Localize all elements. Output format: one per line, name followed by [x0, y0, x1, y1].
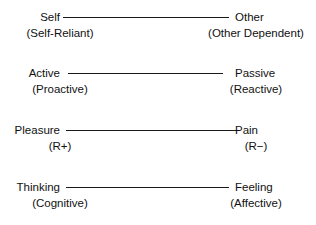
dimension-sublabels: (Self-Reliant) (Other Dependent) — [0, 25, 316, 41]
scale-connector-line — [66, 187, 229, 188]
right-pole-label: Pain — [235, 122, 258, 138]
dimension-row: Pleasure Pain (R+) (R−) — [0, 122, 316, 162]
left-pole-sublabel: (R+) — [0, 138, 120, 154]
dimension-sublabels: (Proactive) (Reactive) — [0, 81, 316, 97]
right-pole-label: Feeling — [235, 179, 273, 195]
left-pole-sublabel: (Cognitive) — [0, 195, 120, 211]
right-pole-sublabel: (Reactive) — [196, 81, 316, 97]
dimension-scale-line: Active Passive — [0, 65, 316, 81]
scale-connector-line — [66, 130, 238, 131]
left-pole-label: Thinking — [17, 179, 60, 195]
scale-connector-line — [63, 17, 229, 18]
right-pole-label: Passive — [235, 65, 275, 81]
dimension-sublabels: (Cognitive) (Affective) — [0, 195, 316, 211]
bipolar-dimensions-diagram: Self Other (Self-Reliant) (Other Depende… — [0, 0, 316, 225]
dimension-scale-line: Pleasure Pain — [0, 122, 316, 138]
left-pole-label: Active — [29, 65, 60, 81]
dimension-row: Thinking Feeling (Cognitive) (Affective) — [0, 179, 316, 219]
dimension-row: Active Passive (Proactive) (Reactive) — [0, 65, 316, 105]
right-pole-sublabel: (Other Dependent) — [196, 25, 316, 41]
right-pole-sublabel: (R−) — [196, 138, 316, 154]
right-pole-sublabel: (Affective) — [196, 195, 316, 211]
dimension-scale-line: Thinking Feeling — [0, 179, 316, 195]
dimension-row: Self Other (Self-Reliant) (Other Depende… — [0, 9, 316, 49]
dimension-sublabels: (R+) (R−) — [0, 138, 316, 154]
left-pole-label: Pleasure — [15, 122, 60, 138]
right-pole-label: Other — [235, 9, 264, 25]
left-pole-sublabel: (Self-Reliant) — [0, 25, 120, 41]
left-pole-sublabel: (Proactive) — [0, 81, 120, 97]
scale-connector-line — [68, 73, 223, 74]
left-pole-label: Self — [40, 9, 60, 25]
dimension-scale-line: Self Other — [0, 9, 316, 25]
